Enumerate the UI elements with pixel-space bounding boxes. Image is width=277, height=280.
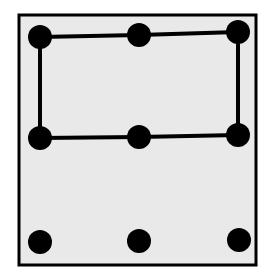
dot-middle-center xyxy=(127,125,151,149)
dot-middle-right xyxy=(226,123,250,147)
dot-bottom-left xyxy=(28,230,52,254)
dot-middle-left xyxy=(28,126,52,150)
dot-top-right xyxy=(226,20,250,44)
dot-bottom-right xyxy=(227,228,251,252)
nine-dot-diagram xyxy=(0,0,277,280)
dot-top-center xyxy=(127,23,151,47)
dot-bottom-center xyxy=(127,229,151,253)
dot-top-left xyxy=(28,25,52,49)
